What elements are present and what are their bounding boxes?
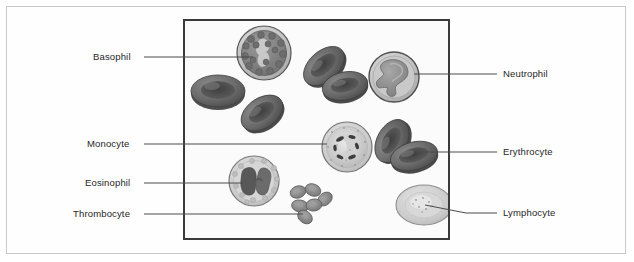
label-monocyte: Monocyte <box>87 138 129 149</box>
label-erythrocyte: Erythrocyte <box>503 146 553 157</box>
label-lymphocyte: Lymphocyte <box>503 207 555 218</box>
label-neutrophil: Neutrophil <box>503 68 548 79</box>
label-thrombocyte: Thrombocyte <box>73 208 130 219</box>
illustration-frame <box>183 19 450 240</box>
label-eosinophil: Eosinophil <box>85 177 130 188</box>
figure-page: Basophil Monocyte Eosinophil Thrombocyte… <box>0 0 634 262</box>
label-basophil: Basophil <box>93 51 131 62</box>
